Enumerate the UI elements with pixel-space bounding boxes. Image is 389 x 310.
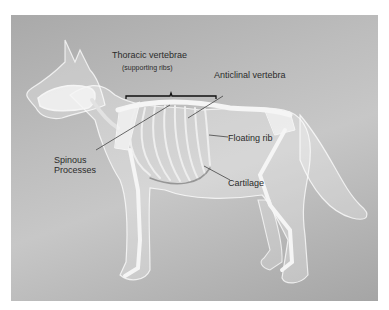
diagram-panel: Thoracic vertebrae (supporting ribs) Ant… bbox=[11, 15, 378, 301]
label-processes: Processes bbox=[54, 165, 96, 176]
label-thoracic-vertebrae: Thoracic vertebrae bbox=[112, 50, 187, 61]
label-cartilage: Cartilage bbox=[228, 178, 264, 189]
label-anticlinal-vertebra: Anticlinal vertebra bbox=[214, 70, 286, 81]
label-thoracic-subtitle: (supporting ribs) bbox=[122, 63, 173, 72]
label-floating-rib: Floating rib bbox=[228, 133, 273, 144]
